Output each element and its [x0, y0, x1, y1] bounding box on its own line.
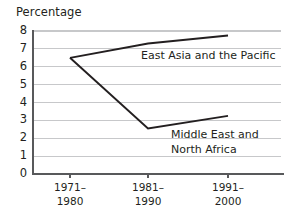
x-axis-tick-label: 1991–2000: [193, 180, 263, 208]
series-label-east-asia-and-the-pacific: East Asia and the Pacific: [141, 48, 275, 63]
y-axis-tick-label: 0: [13, 166, 27, 180]
y-axis-tick-label: 4: [13, 95, 27, 109]
y-axis-tick-label: 5: [13, 77, 27, 91]
y-axis-tick-label: 7: [13, 41, 27, 55]
series-label-line: Middle East and: [171, 127, 259, 142]
series-label-middle-east-and-north-africa: Middle East andNorth Africa: [171, 127, 259, 157]
series-label-line: East Asia and the Pacific: [141, 48, 275, 63]
x-axis-tick-label-line: 2000: [193, 194, 263, 208]
series-label-line: North Africa: [171, 142, 259, 157]
x-axis-tick-label-line: 1991–: [193, 180, 263, 194]
x-axis-tick-label-line: 1981–: [113, 180, 183, 194]
x-axis-tick-label-line: 1990: [113, 194, 183, 208]
x-axis-tick-label: 1981–1990: [113, 180, 183, 208]
y-axis-tick-label: 3: [13, 112, 27, 126]
x-axis-tick-label-line: 1971–: [35, 180, 105, 194]
y-axis-tick-label: 1: [13, 148, 27, 162]
x-axis-tick-label-line: 1980: [35, 194, 105, 208]
y-axis-tick-label: 8: [13, 23, 27, 37]
percentage-line-chart: Percentage 012345678 1971–19801981–19901…: [0, 0, 286, 213]
y-axis-tick-label: 6: [13, 59, 27, 73]
x-axis-tick-label: 1971–1980: [35, 180, 105, 208]
y-axis-tick-label: 2: [13, 130, 27, 144]
